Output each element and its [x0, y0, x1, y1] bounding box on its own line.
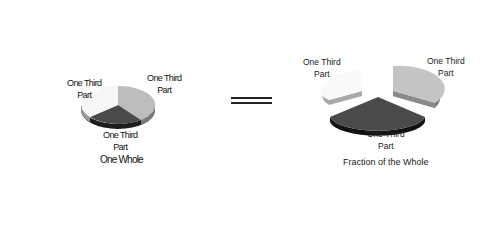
- right-label-upper-right: One ThirdPart: [427, 55, 465, 79]
- left-label-upper-right: One ThirdPart: [147, 72, 181, 96]
- right-label-upper-left: One ThirdPart: [303, 56, 341, 80]
- left-label-bottom: One ThirdPart: [103, 129, 137, 153]
- right-panel-title: Fraction of the Whole: [343, 157, 429, 167]
- left-label-upper-left: One ThirdPart: [67, 77, 101, 101]
- equals-sign-icon: [231, 97, 272, 105]
- exploded-slice-dark: [330, 97, 425, 131]
- right-label-bottom: One ThirdPart: [367, 128, 405, 152]
- left-panel-title: One Whole: [100, 154, 143, 165]
